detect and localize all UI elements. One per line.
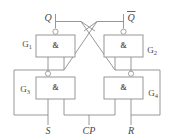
wire-g4-left-to-cp [89,99,115,115]
gate-g1-label: G1 [22,39,32,50]
wire-qbar-branch-left [84,22,124,32]
wire-g3-right-to-cp [64,99,89,115]
gate-g2-label: G2 [147,45,157,56]
gate-g1-symbol: & [52,41,59,50]
terminal-label-q: Q [44,12,52,23]
wire-q-branch-right [56,22,96,32]
gate-g4-label: G4 [148,88,159,99]
terminal-label-cp: CP [83,125,96,136]
logic-diagram-canvas: & G1 & G2 & G3 & G4 Q Q S CP R [0,0,173,136]
gate-g4-bubble-icon [128,71,133,76]
wire-layer [14,14,160,125]
circuit-svg: & G1 & G2 & G3 & G4 Q Q S CP R [0,0,173,136]
gate-g1-bubble-icon [53,29,58,34]
gate-layer: & G1 & G2 & G3 & G4 [20,29,159,99]
terminal-label-r: R [127,125,134,136]
gate-g2-bubble-icon [121,29,126,34]
terminal-label-qbar: Q [127,12,135,23]
gate-g3-symbol: & [52,83,59,92]
gate-g4-symbol: & [120,83,127,92]
terminal-label-s: S [46,125,51,136]
gate-g3-bubble-icon [45,71,50,76]
gate-g2-symbol: & [120,41,127,50]
gate-g3-label: G3 [20,84,30,95]
